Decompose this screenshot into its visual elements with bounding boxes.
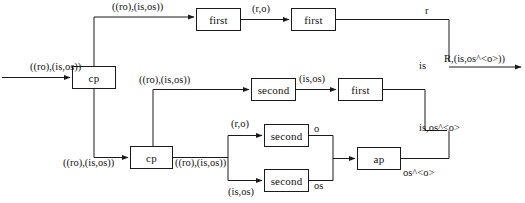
node-second1[interactable]: second [251, 78, 296, 101]
node-cp2[interactable]: cp [130, 146, 173, 169]
node-second2[interactable]: second [264, 124, 309, 147]
node-second2-label: second [271, 130, 303, 142]
edge-second2-ap [309, 136, 355, 159]
diagram-canvas: cp first first second first cp second se… [0, 0, 525, 203]
edge-cp1-cp2 [94, 89, 128, 158]
edge-label-cp1-top: ((ro),(is,os)) [112, 2, 163, 13]
node-second3-label: second [271, 175, 303, 187]
node-first1-label: first [209, 14, 228, 26]
edge-label-first3-out: is [419, 61, 426, 72]
node-ap[interactable]: ap [357, 147, 401, 170]
node-cp2-label: cp [146, 152, 157, 164]
node-second1-label: second [258, 84, 290, 96]
edge-second3-ap [309, 159, 333, 181]
edge-label-cp2-out: ((ro),(is,os)) [175, 158, 226, 169]
edge-first2-merge [336, 20, 449, 63]
node-first3[interactable]: first [338, 78, 383, 101]
edge-label-ap-out: os^<o> [403, 168, 434, 179]
node-first1[interactable]: first [196, 8, 241, 31]
node-ap-label: ap [374, 153, 385, 165]
edge-label-final-output: R,(is,os^<o>)) [444, 54, 505, 65]
edge-label-first2-out: r [425, 6, 429, 17]
edge-label-cp2-mid: ((ro),(is,os)) [139, 75, 190, 86]
node-cp1-label: cp [89, 72, 100, 84]
node-first3-label: first [351, 84, 370, 96]
edge-cp1-first1 [94, 17, 194, 66]
edge-split-second2 [228, 136, 262, 158]
edge-label-branch-bottom: (is,os) [228, 187, 254, 198]
edge-label-cp1-bottom: ((ro),(is,os)) [63, 158, 114, 169]
node-second3[interactable]: second [264, 169, 309, 192]
edge-label-merge: is,os^<o> [419, 123, 460, 134]
node-first2-label: first [304, 14, 323, 26]
edge-split-second3 [228, 158, 262, 181]
edge-label-branch-top: (r,o) [231, 119, 249, 130]
edge-label-first1-out: (r,o) [252, 4, 270, 15]
diagram-edges [0, 0, 525, 203]
edge-label-input: ((ro),(is,os)) [30, 62, 81, 73]
node-first2[interactable]: first [291, 8, 336, 31]
edge-label-second2-out: o [314, 124, 319, 135]
edge-label-second3-out: os [314, 181, 323, 192]
edge-label-second1-out: (is,os) [299, 74, 325, 85]
